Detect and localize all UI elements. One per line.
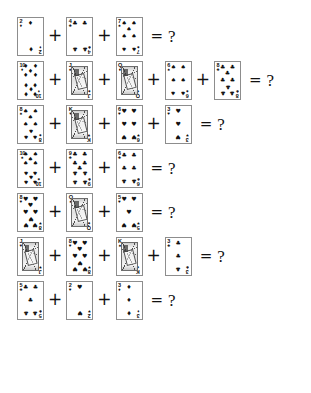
playing-card: 3♥3♥♥♥♥ [165, 105, 192, 144]
card-pip-clubs-icon: ♣ [121, 165, 126, 171]
playing-card: Q♦Q♦ [116, 61, 143, 100]
card-pip-clubs-icon: ♣ [72, 20, 77, 26]
card-pip-diamonds-icon: ♦ [126, 297, 131, 303]
card-pip-area: ♦♦♦ [122, 284, 136, 317]
card-pip-area: ♠♠♠♠♠♠♠♠♠♠ [24, 152, 38, 185]
card-corner-bottom-right: 9♣ [88, 176, 91, 186]
answer-placeholder[interactable]: ? [217, 116, 225, 133]
answer-placeholder[interactable]: ? [168, 160, 176, 177]
card-pip-hearts-icon: ♥ [33, 222, 38, 228]
card-pip-clubs-icon: ♣ [82, 170, 87, 176]
equals-operator: = [192, 249, 218, 264]
card-pip-clubs-icon: ♣ [72, 179, 77, 185]
answer-placeholder[interactable]: ? [168, 292, 176, 309]
playing-card: 7♠7♠♠♠♠♠♠♠♠ [116, 17, 143, 56]
card-pip-area: ♣♣♣♣♣♣♣♣ [221, 64, 235, 97]
card-corner-bottom-right: 2♦ [39, 44, 42, 54]
card-pip-hearts-icon: ♥ [77, 310, 82, 316]
card-pip-spades-icon: ♠ [23, 160, 28, 166]
plus-operator: + [93, 159, 115, 176]
card-pip-clubs-icon: ♣ [33, 310, 38, 316]
plus-operator: + [44, 159, 66, 176]
card-suit-spades-icon: ♠ [137, 44, 139, 49]
card-pip-area: ♠♠♠♠♠♠♠ [122, 20, 136, 53]
plus-operator: + [44, 203, 66, 220]
equals-operator: = [143, 205, 169, 220]
card-pip-diamonds-icon: ♦ [28, 20, 33, 26]
card-corner-bottom-right: 4♣ [88, 44, 91, 54]
playing-card: 6♥6♥♥♥♥♥♥♥ [116, 105, 143, 144]
card-pip-clubs-icon: ♣ [72, 46, 77, 52]
card-corner-top-left: 3♣ [167, 239, 170, 249]
card-pip-diamonds-icon: ♦ [23, 72, 28, 78]
card-pip-clubs-icon: ♣ [220, 90, 225, 96]
card-pip-clubs-icon: ♣ [82, 151, 87, 157]
card-pip-area: ♥♥♥♥♥♥♥♥ [73, 240, 87, 273]
equals-operator: = [241, 73, 267, 88]
card-pip-diamonds-icon: ♦ [28, 46, 33, 52]
answer-placeholder[interactable]: ? [267, 72, 275, 89]
equation-row: 2♦2♦♦♦+4♣4♣♣♣♣♣+7♠7♠♠♠♠♠♠♠♠=? [0, 14, 311, 58]
card-pip-area: ♥♥♥♥♥ [122, 196, 136, 229]
plus-operator: + [93, 71, 115, 88]
card-corner-bottom-right: 7♠ [137, 44, 140, 54]
card-corner-bottom-right: 3♦ [137, 308, 140, 318]
card-pip-clubs-icon: ♣ [131, 178, 136, 184]
playing-card: 6♣6♣♣♣♣♣♣♣ [116, 149, 143, 188]
card-corner-top-left: 6♥ [118, 107, 121, 117]
card-pip-clubs-icon: ♣ [176, 240, 181, 246]
card-corner-bottom-right: 8♠ [39, 132, 42, 142]
playing-card: Q♠Q♠ [66, 193, 93, 232]
card-pip-area: ♦♦ [24, 20, 38, 53]
card-pip-diamonds-icon: ♦ [23, 91, 28, 97]
playing-card: 4♣4♣♣♣♣♣ [66, 17, 93, 56]
answer-placeholder[interactable]: ? [168, 28, 176, 45]
card-suit-clubs-icon: ♣ [88, 176, 91, 181]
card-suit-hearts-icon: ♥ [118, 200, 121, 205]
plus-operator: + [143, 247, 165, 264]
card-suit-hearts-icon: ♥ [88, 308, 91, 313]
card-pip-clubs-icon: ♣ [82, 20, 87, 26]
card-pip-hearts-icon: ♥ [131, 134, 136, 140]
playing-card: J♥J♥ [17, 237, 44, 276]
card-suit-clubs-icon: ♣ [186, 264, 189, 269]
playing-card: 9♣9♣♣♣♣♣♣♣♣♣♣ [66, 149, 93, 188]
playing-card: 2♦2♦♦♦ [17, 17, 44, 56]
card-suit-hearts-icon: ♥ [39, 220, 42, 225]
equation-row: 8♥8♥♥♥♥♥♥♥♥♥+Q♠Q♠+5♥5♥♥♥♥♥♥=? [0, 190, 311, 234]
card-pip-area: ♦♦♦♦♦♦♦♦♦♦ [24, 64, 38, 97]
answer-placeholder[interactable]: ? [217, 248, 225, 265]
card-pip-clubs-icon: ♣ [176, 266, 181, 272]
card-suit-spades-icon: ♠ [88, 88, 90, 93]
card-suit-diamonds-icon: ♦ [39, 44, 41, 49]
equation-row: 10♦10♦♦♦♦♦♦♦♦♦♦♦+J♠J♠+Q♦Q♦+6♠6♠♠♠♠♠♠♠+8♣… [0, 58, 311, 102]
plus-operator: + [44, 247, 66, 264]
card-suit-hearts-icon: ♥ [187, 132, 190, 137]
card-pip-spades-icon: ♠ [180, 90, 185, 96]
card-corner-top-left: 2♦ [20, 19, 23, 29]
card-pip-spades-icon: ♠ [180, 77, 185, 83]
card-pip-spades-icon: ♠ [33, 121, 38, 127]
card-suit-clubs-icon: ♣ [236, 88, 239, 93]
plus-operator: + [192, 71, 214, 88]
card-pip-spades-icon: ♠ [180, 64, 185, 70]
card-pip-spades-icon: ♠ [171, 64, 176, 70]
plus-operator: + [44, 291, 66, 308]
card-pip-spades-icon: ♠ [23, 134, 28, 140]
card-pip-hearts-icon: ♥ [176, 108, 181, 114]
card-corner-top-left: 6♠ [167, 63, 170, 73]
court-card-artwork [121, 66, 138, 95]
card-pip-hearts-icon: ♥ [33, 209, 38, 215]
card-pip-clubs-icon: ♣ [23, 310, 28, 316]
card-suit-hearts-icon: ♥ [69, 244, 72, 249]
playing-card: 6♠6♠♠♠♠♠♠♠ [165, 61, 192, 100]
equals-operator: = [143, 293, 169, 308]
card-corner-top-left: 7♠ [118, 19, 121, 29]
playing-card: 3♦3♦♦♦♦ [116, 281, 143, 320]
plus-operator: + [93, 27, 115, 44]
card-pip-area: ♣♣♣♣♣♣ [122, 152, 136, 185]
card-pip-spades-icon: ♠ [33, 108, 38, 114]
card-corner-bottom-right: 2♥ [88, 308, 91, 318]
answer-placeholder[interactable]: ? [168, 204, 176, 221]
card-pip-diamonds-icon: ♦ [126, 310, 131, 316]
